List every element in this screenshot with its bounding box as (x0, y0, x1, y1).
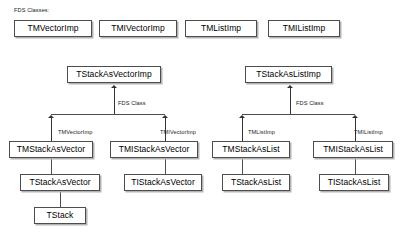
node-fds-class[interactable]: TMIVectorImp (99, 20, 177, 37)
node-concrete-class[interactable]: TIStackAsList (319, 174, 389, 191)
class-hierarchy-diagram: FDS Classes: TMVector (0, 0, 401, 236)
edge-label-fds-class: FDS Class (118, 101, 146, 107)
node-concrete-class[interactable]: TStackAsList (222, 174, 290, 191)
node-fds-class[interactable]: TMIListImp (268, 20, 340, 37)
edge-label-tmilistimp: TMIListImp (354, 130, 383, 136)
edge-label-tmlistimp: TMListImp (248, 130, 275, 136)
node-imp-class[interactable]: TStackAsVectorImp (67, 66, 161, 83)
node-fds-class[interactable]: TMVectorImp (14, 20, 92, 37)
node-base-class[interactable]: TStack (34, 207, 86, 224)
node-template-class[interactable]: TMIStackAsList (313, 141, 393, 158)
node-concrete-class[interactable]: TStackAsVector (20, 174, 100, 191)
edge-label-tmivectorimp: TMIVectorImp (160, 130, 196, 136)
node-template-class[interactable]: TMIStackAsVector (110, 141, 198, 158)
edge-label-tmvectorimp: TMVectorImp (58, 130, 92, 136)
node-imp-class[interactable]: TStackAsListImp (245, 66, 332, 83)
node-template-class[interactable]: TMStackAsVector (9, 141, 93, 158)
node-template-class[interactable]: TMStackAsList (212, 141, 290, 158)
edge-label-fds-class: FDS Class (296, 101, 324, 107)
node-concrete-class[interactable]: TIStackAsVector (124, 174, 202, 191)
node-fds-class[interactable]: TMListImp (185, 20, 257, 37)
fds-classes-heading: FDS Classes: (14, 8, 49, 14)
